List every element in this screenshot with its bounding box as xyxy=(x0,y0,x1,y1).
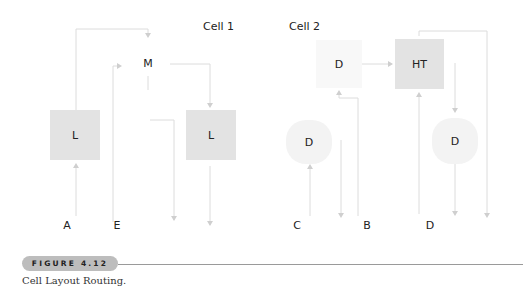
block-d-right: D xyxy=(432,118,478,164)
block-m: M xyxy=(130,52,166,74)
wire-e-to-m xyxy=(113,66,120,222)
wire-m-to-l xyxy=(170,64,210,106)
wire-m-down xyxy=(150,120,174,220)
figure-rule xyxy=(118,264,523,265)
block-m-label: M xyxy=(143,57,153,70)
block-l-right: L xyxy=(186,110,236,160)
figure-caption: Cell Layout Routing. xyxy=(22,275,126,286)
block-d-left: D xyxy=(286,120,332,164)
figure-badge: FIGURE 4.12 xyxy=(22,256,118,271)
block-l-left: L xyxy=(50,110,100,160)
block-d-left-label: D xyxy=(305,136,313,149)
wire-b-to-d xyxy=(339,92,358,216)
block-d-top: D xyxy=(316,40,362,88)
block-l-right-label: L xyxy=(208,129,214,142)
block-d-right-label: D xyxy=(451,135,459,148)
pin-b: B xyxy=(363,219,371,232)
pin-c: C xyxy=(293,219,301,232)
block-ht-label: HT xyxy=(412,58,427,71)
block-d-top-label: D xyxy=(335,58,343,71)
pin-d: D xyxy=(426,219,434,232)
pin-e: E xyxy=(114,219,121,232)
block-ht: HT xyxy=(395,39,444,89)
pin-a: A xyxy=(63,219,71,232)
block-l-left-label: L xyxy=(72,129,78,142)
